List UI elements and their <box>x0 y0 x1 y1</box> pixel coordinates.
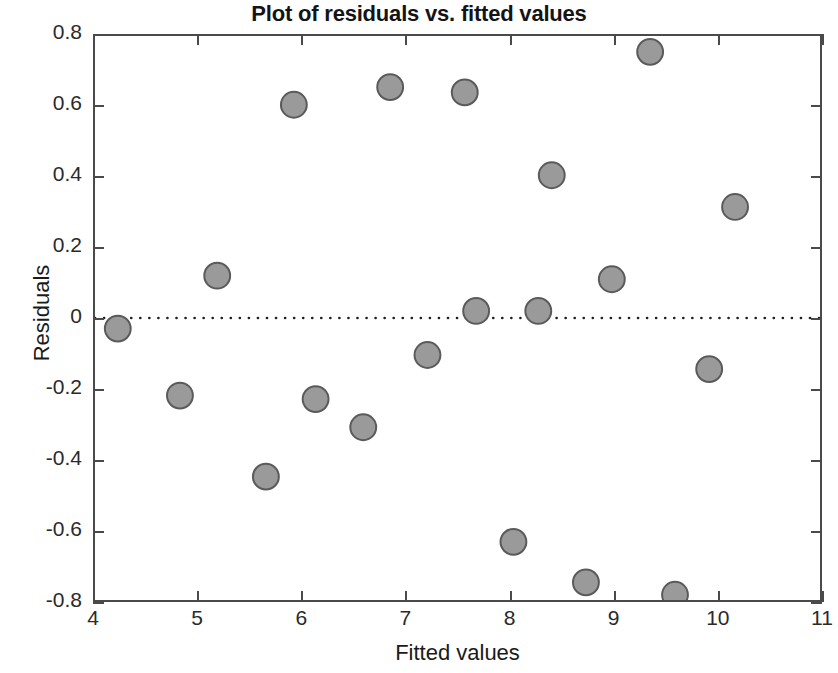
x-axis-tick-label: 5 <box>167 606 227 630</box>
x-axis-tick-label: 8 <box>480 606 540 630</box>
data-point <box>452 79 478 105</box>
y-axis-tick <box>93 460 104 462</box>
x-axis-tick-top <box>197 34 199 45</box>
x-axis-tick <box>614 591 616 602</box>
data-point <box>539 162 565 188</box>
y-axis-tick-right <box>811 105 822 107</box>
data-point <box>167 383 193 409</box>
x-axis-tick <box>301 591 303 602</box>
data-point <box>105 316 131 342</box>
y-axis-title: Residuals <box>29 163 55 463</box>
y-axis-tick <box>93 247 104 249</box>
y-axis-tick-label: 0.6 <box>0 91 82 115</box>
y-axis-tick-right <box>811 460 822 462</box>
data-point <box>525 298 551 324</box>
scatter-canvas <box>95 36 820 600</box>
x-axis-tick-top <box>614 34 616 45</box>
x-axis-tick <box>718 591 720 602</box>
data-point <box>599 266 625 292</box>
y-axis-tick <box>93 318 104 320</box>
y-axis-tick <box>93 389 104 391</box>
y-axis-tick-label: 0.8 <box>0 20 82 44</box>
data-point <box>204 263 230 289</box>
data-point <box>415 342 441 368</box>
residuals-plot-figure: Plot of residuals vs. fitted values 0.80… <box>0 0 838 673</box>
data-point <box>350 414 376 440</box>
data-point <box>253 464 279 490</box>
x-axis-tick <box>93 591 95 602</box>
data-point <box>722 194 748 220</box>
data-point <box>662 582 688 600</box>
x-axis-tick-label: 10 <box>688 606 748 630</box>
data-point <box>500 529 526 555</box>
x-axis-title: Fitted values <box>93 640 822 666</box>
x-axis-tick <box>197 591 199 602</box>
data-point <box>637 39 663 65</box>
y-axis-tick-right <box>811 176 822 178</box>
y-axis-tick-right <box>811 318 822 320</box>
x-axis-tick-label: 7 <box>375 606 435 630</box>
x-axis-tick-top <box>510 34 512 45</box>
x-axis-tick-label: 11 <box>792 606 838 630</box>
data-point <box>377 74 403 100</box>
y-axis-tick <box>93 602 104 604</box>
x-axis-tick-top <box>301 34 303 45</box>
y-axis-tick <box>93 176 104 178</box>
y-axis-tick <box>93 105 104 107</box>
data-point <box>463 298 489 324</box>
x-axis-tick <box>510 591 512 602</box>
data-point <box>573 569 599 595</box>
y-axis-tick-right <box>811 247 822 249</box>
y-axis-tick-right <box>811 389 822 391</box>
data-point <box>303 386 329 412</box>
x-axis-tick-label: 6 <box>271 606 331 630</box>
x-axis-tick <box>405 591 407 602</box>
chart-title: Plot of residuals vs. fitted values <box>0 1 838 27</box>
x-axis-tick-label: 9 <box>584 606 644 630</box>
x-axis-tick-top <box>93 34 95 45</box>
x-axis-tick-top <box>405 34 407 45</box>
y-axis-tick <box>93 531 104 533</box>
x-axis-tick-top <box>718 34 720 45</box>
data-point <box>281 92 307 118</box>
y-axis-tick-label: -0.6 <box>0 517 82 541</box>
x-axis-tick <box>822 591 824 602</box>
y-axis-tick-right <box>811 34 822 36</box>
data-point <box>696 356 722 382</box>
y-axis-tick-right <box>811 602 822 604</box>
x-axis-tick-top <box>822 34 824 45</box>
y-axis-tick-right <box>811 531 822 533</box>
plot-area <box>93 34 822 602</box>
x-axis-tick-label: 4 <box>63 606 123 630</box>
